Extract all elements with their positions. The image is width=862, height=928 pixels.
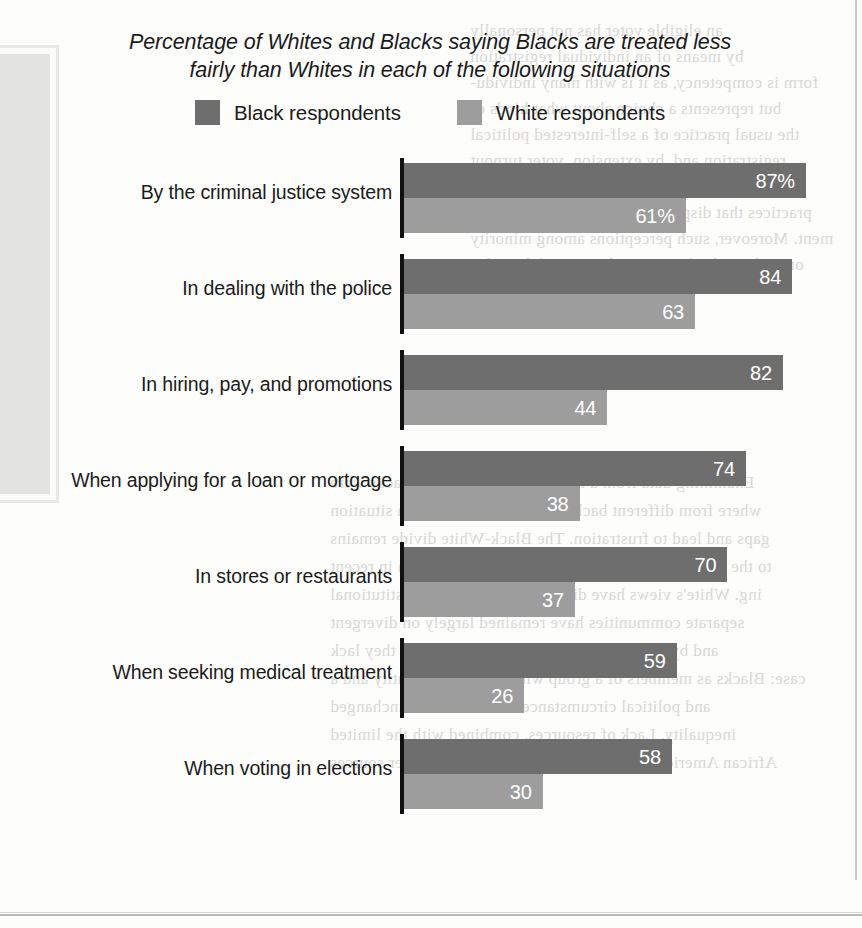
bar-value-label: 26 xyxy=(491,686,524,706)
legend-label: White respondents xyxy=(496,101,665,125)
chart-title-line-2: fairly than Whites in each of the follow… xyxy=(95,56,765,84)
bar-value-label: 59 xyxy=(644,651,677,671)
bar-pair: 5926 xyxy=(404,643,677,713)
bar-value-label: 87% xyxy=(756,171,806,191)
legend-swatch-icon xyxy=(195,100,220,125)
category-label: By the criminal justice system xyxy=(141,181,392,204)
chart-group: When applying for a loan or mortgage7438 xyxy=(0,438,862,534)
category-label: In stores or restaurants xyxy=(195,565,392,588)
bar: 58 xyxy=(404,739,672,774)
chart-group: In hiring, pay, and promotions8244 xyxy=(0,342,862,438)
page-bottom-rule-light xyxy=(0,912,862,913)
legend-swatch-icon xyxy=(457,100,482,125)
bar: 63 xyxy=(404,294,695,329)
page-bottom-rule xyxy=(0,914,862,916)
bar: 26 xyxy=(404,678,524,713)
bar-value-label: 37 xyxy=(542,590,575,610)
chart-title-line-1: Percentage of Whites and Blacks saying B… xyxy=(129,30,731,54)
legend-item: White respondents xyxy=(457,100,665,125)
bar-chart: By the criminal justice system87%61%In d… xyxy=(0,150,862,822)
bar-pair: 7037 xyxy=(404,547,727,617)
bar-value-label: 30 xyxy=(510,782,543,802)
legend-item: Black respondents xyxy=(195,100,401,125)
chart-group: In stores or restaurants7037 xyxy=(0,534,862,630)
bar-pair: 8244 xyxy=(404,355,783,425)
bar: 82 xyxy=(404,355,783,390)
chart-title: Percentage of Whites and Blacks saying B… xyxy=(95,28,765,84)
bar-pair: 87%61% xyxy=(404,163,806,233)
bar-value-label: 82 xyxy=(750,363,783,383)
category-label: In dealing with the police xyxy=(182,277,392,300)
chart-group: In dealing with the police8463 xyxy=(0,246,862,342)
bar-value-label: 70 xyxy=(695,555,728,575)
legend-label: Black respondents xyxy=(234,101,401,125)
category-label: When applying for a loan or mortgage xyxy=(71,469,392,492)
bar-pair: 8463 xyxy=(404,259,792,329)
bar: 87% xyxy=(404,163,806,198)
bar-value-label: 44 xyxy=(574,398,607,418)
category-label: When seeking medical treatment xyxy=(113,661,392,684)
category-label: In hiring, pay, and promotions xyxy=(141,373,392,396)
chart-group: By the criminal justice system87%61% xyxy=(0,150,862,246)
bar-value-label: 38 xyxy=(547,494,580,514)
category-label: When voting in elections xyxy=(184,757,392,780)
bar-value-label: 84 xyxy=(759,267,792,287)
bar-pair: 5830 xyxy=(404,739,672,809)
bar: 84 xyxy=(404,259,792,294)
bar: 74 xyxy=(404,451,746,486)
chart-legend: Black respondentsWhite respondents xyxy=(95,100,765,125)
bar: 44 xyxy=(404,390,607,425)
bar: 59 xyxy=(404,643,677,678)
bleed-through-line: the usual practice of a self-interested … xyxy=(470,122,799,147)
scanned-page: an eligible voter has not personallyby m… xyxy=(0,0,862,928)
bar: 37 xyxy=(404,582,575,617)
bar: 38 xyxy=(404,486,580,521)
bar: 61% xyxy=(404,198,686,233)
bar-value-label: 58 xyxy=(639,747,672,767)
chart-group: When voting in elections5830 xyxy=(0,726,862,822)
bar-pair: 7438 xyxy=(404,451,746,521)
chart-group: When seeking medical treatment5926 xyxy=(0,630,862,726)
bar-value-label: 74 xyxy=(713,459,746,479)
bar: 30 xyxy=(404,774,543,809)
bar-value-label: 63 xyxy=(662,302,695,322)
bar: 70 xyxy=(404,547,727,582)
bar-value-label: 61% xyxy=(635,206,685,226)
